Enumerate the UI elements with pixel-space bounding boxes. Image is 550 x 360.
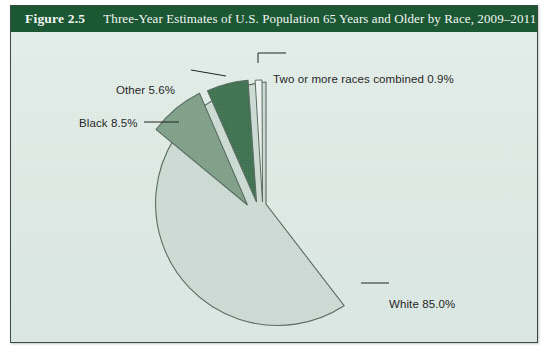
leader-line-two-or-more bbox=[258, 53, 286, 63]
pie-label-white: White 85.0% bbox=[389, 298, 455, 310]
pie-label-other: Other 5.6% bbox=[116, 84, 175, 96]
figure-title: Three-Year Estimates of U.S. Population … bbox=[103, 11, 536, 27]
pie-label-black: Black 8.5% bbox=[79, 117, 138, 129]
leader-line-other bbox=[191, 70, 226, 76]
figure-caption-bar: Figure 2.5 Three-Year Estimates of U.S. … bbox=[11, 6, 537, 32]
pie-label-two-or-more: Two or more races combined 0.9% bbox=[273, 73, 454, 85]
chart-plot-area: Black 8.5% Other 5.6% Two or more races … bbox=[11, 32, 537, 342]
figure-container: Figure 2.5 Three-Year Estimates of U.S. … bbox=[10, 5, 538, 343]
figure-number: Figure 2.5 bbox=[25, 11, 85, 27]
